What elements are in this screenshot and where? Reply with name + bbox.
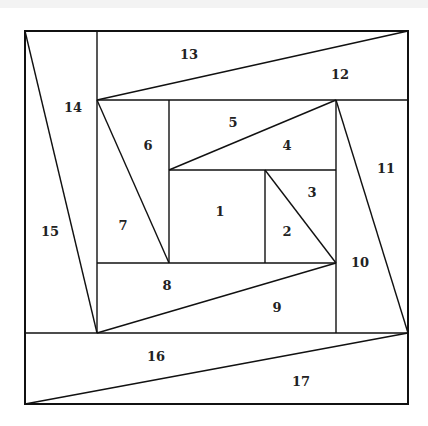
diagonal-6-7 xyxy=(97,100,169,263)
diagonal-16-17 xyxy=(25,333,408,404)
piece-label-5: 5 xyxy=(228,115,237,130)
piece-labels: 1 2 3 4 5 6 7 8 9 10 11 12 13 14 15 16 1… xyxy=(41,47,395,389)
piece-label-16: 16 xyxy=(147,349,165,364)
piece-label-2: 2 xyxy=(282,224,291,239)
piece-label-11: 11 xyxy=(377,161,395,176)
piece-label-3: 3 xyxy=(307,185,316,200)
quilt-diagram: 1 2 3 4 5 6 7 8 9 10 11 12 13 14 15 16 1… xyxy=(0,0,428,426)
piece-label-15: 15 xyxy=(41,224,59,239)
diagonal-11-10 xyxy=(336,100,408,333)
piece-label-4: 4 xyxy=(282,138,291,153)
piece-label-13: 13 xyxy=(180,47,198,62)
diagonal-3-2 xyxy=(265,170,336,263)
piece-label-14: 14 xyxy=(64,100,82,115)
piece-label-17: 17 xyxy=(292,374,310,389)
diagram-canvas: 1 2 3 4 5 6 7 8 9 10 11 12 13 14 15 16 1… xyxy=(0,0,428,426)
piece-label-10: 10 xyxy=(351,255,369,270)
diagonal-13-12 xyxy=(97,31,408,100)
piece-label-9: 9 xyxy=(272,300,281,315)
piece-label-6: 6 xyxy=(143,138,152,153)
diagonal-14-15 xyxy=(25,31,97,333)
piece-label-8: 8 xyxy=(162,278,171,293)
diagonal-5-4 xyxy=(169,100,336,170)
piece-label-12: 12 xyxy=(331,67,349,82)
diagonal-8-9 xyxy=(97,263,336,333)
piece-label-7: 7 xyxy=(118,218,127,233)
piece-label-1: 1 xyxy=(215,204,224,219)
